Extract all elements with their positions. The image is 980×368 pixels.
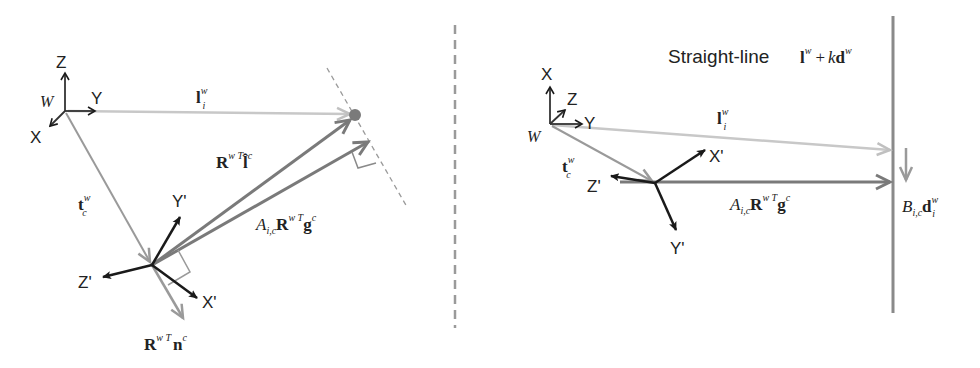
straight-line-title: Straight-line: [668, 46, 769, 67]
left-panel: Z Y X W Y' X' Z' lwi twc Rw Tl̂c Ai,cRw …: [30, 53, 407, 354]
straight-line-equation: lw+kdw: [800, 45, 852, 67]
label-rl: Rw Tl̂c: [216, 150, 253, 172]
label-t: twc: [78, 192, 91, 218]
axis-label-x-right: X: [541, 65, 552, 84]
axis-label-x-prime-right: X': [709, 147, 724, 166]
axis-label-y-right: Y: [584, 114, 595, 133]
origin-label-w-right: W: [527, 128, 542, 145]
landmark-point: [349, 109, 361, 121]
axis-label-z: Z: [56, 53, 66, 72]
axis-label-z-prime-right: Z': [587, 177, 601, 196]
axis-label-y-prime: Y': [172, 192, 187, 211]
dashed-plane-line: [327, 68, 407, 207]
label-l: lwi: [196, 85, 208, 111]
label-rn: Rw Tnc: [144, 332, 187, 354]
camera-axes-right: [611, 150, 705, 230]
vector-l-arrow: [68, 111, 350, 114]
origin-label-w: W: [40, 93, 55, 110]
label-t-right: twc: [562, 154, 575, 180]
axis-label-y-prime-right: Y': [670, 239, 685, 258]
axis-label-x: X: [30, 128, 41, 147]
label-bd: Bi,cdwi: [902, 194, 939, 219]
vector-rn-arrow: [152, 265, 183, 318]
diagram-svg: Z Y X W Y' X' Z' lwi twc Rw Tl̂c Ai,cRw …: [0, 0, 980, 368]
right-angle-mark-plane: [352, 152, 376, 168]
axis-label-y: Y: [91, 89, 102, 108]
vector-t-arrow: [66, 113, 150, 262]
right-panel: Straight-line lw+kdw X Z Y W X' Y' Z': [527, 16, 939, 313]
label-ag: Ai,cRw Tgc: [255, 212, 317, 236]
diagram-canvas: Z Y X W Y' X' Z' lwi twc Rw Tl̂c Ai,cRw …: [0, 0, 980, 368]
label-l-right: lwi: [717, 106, 729, 132]
label-ag-right: Ai,cRw Tgc: [729, 192, 791, 216]
axis-label-z-prime: Z': [78, 273, 92, 292]
axis-label-x-prime: X': [202, 293, 217, 312]
axis-label-z-right: Z: [567, 90, 577, 109]
world-axes-left: [50, 73, 95, 126]
